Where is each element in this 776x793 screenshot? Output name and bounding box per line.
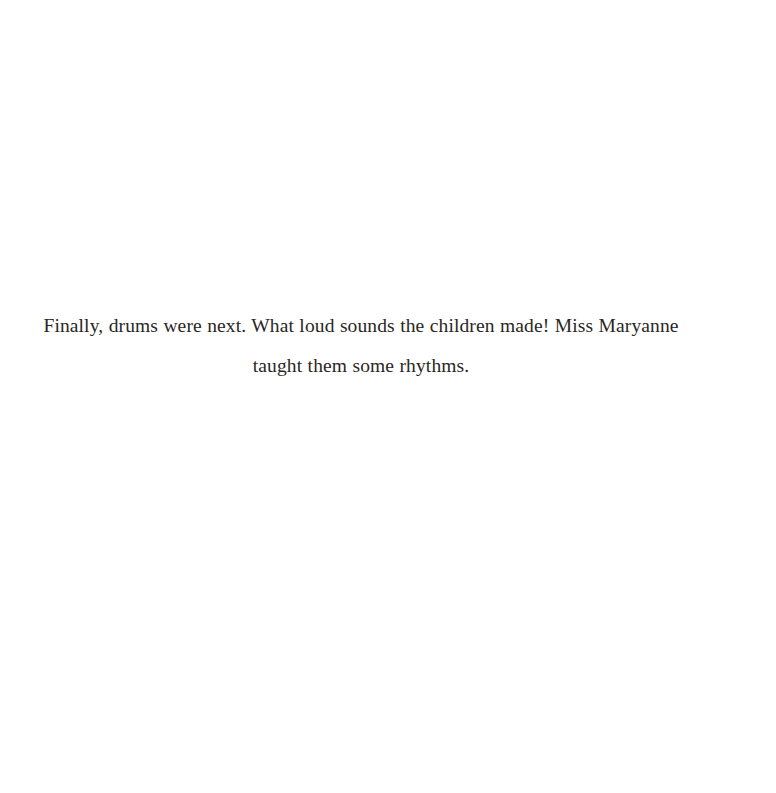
page-blank-top-margin [0, 0, 776, 306]
page-blank-bottom-margin [0, 400, 776, 793]
story-text-block: Finally, drums were next. What loud soun… [38, 306, 684, 386]
story-paragraph: Finally, drums were next. What loud soun… [38, 306, 684, 386]
story-page: Finally, drums were next. What loud soun… [0, 0, 776, 793]
